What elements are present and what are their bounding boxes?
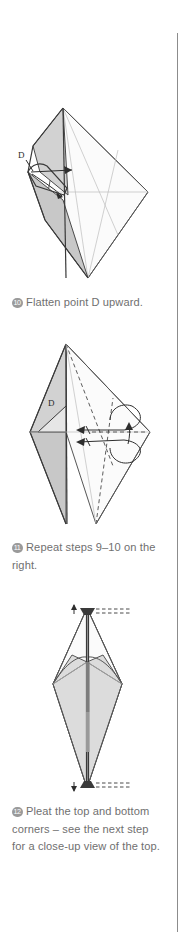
column-divider-rule [177,33,178,932]
step-number-badge-12: 12 [12,807,23,818]
kite-fold-arrows-diagram: D [0,336,170,531]
step-caption-text-11: Repeat steps 9–10 on the right. [12,541,155,571]
step-caption-10: 10Flatten point D upward. [12,294,164,312]
tall-diamond-pleat-diagram [0,600,170,795]
step-number-badge-11: 11 [12,543,23,554]
point-label-d: D [48,398,55,408]
kite-with-flap-diagram: D [0,100,170,285]
step-caption-text-10: Flatten point D upward. [26,296,143,308]
point-label-d: D [18,150,25,160]
step-caption-12: 12Pleat the top and bottom corners – see… [12,803,164,856]
step-caption-11: 11Repeat steps 9–10 on the right. [12,539,164,574]
step-number-badge-10: 10 [12,298,23,309]
page-canvas: D 10Flatten point D upward. [0,0,188,932]
step-caption-text-12: Pleat the top and bottom corners – see t… [12,805,160,852]
